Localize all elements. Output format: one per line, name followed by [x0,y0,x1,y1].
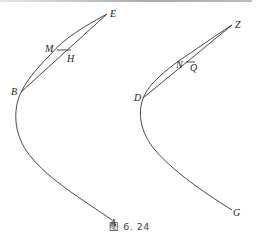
left-curve [16,14,112,220]
label-M: M [44,43,54,54]
label-D: D [133,92,142,103]
figure-caption: 图 6. 24 [0,219,259,233]
label-B: B [11,86,17,97]
chord-EB [21,14,107,92]
label-H: H [66,53,75,64]
label-Z: Z [235,19,241,30]
right-curve [140,25,232,210]
label-Q: Q [190,62,198,73]
conic-figure: E M H B A Z N Q D G [0,0,259,240]
label-N: N [175,59,184,70]
label-G: G [233,207,240,218]
chord-ZD [143,25,232,98]
label-E: E [109,8,116,19]
